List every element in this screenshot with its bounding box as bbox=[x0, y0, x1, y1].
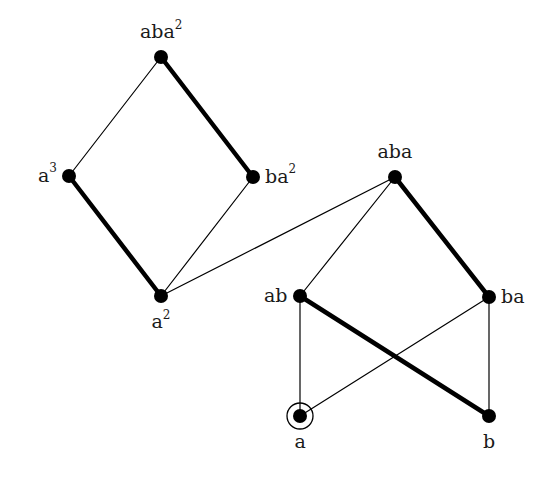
node-label-b: b bbox=[483, 432, 495, 451]
edge-a2-aba bbox=[161, 177, 395, 296]
node-b bbox=[482, 409, 496, 423]
edge-ba2-a2 bbox=[161, 177, 253, 296]
node-label-a3: a3 bbox=[38, 166, 57, 185]
node-a bbox=[293, 409, 307, 423]
node-a3 bbox=[62, 169, 76, 183]
node-aba2 bbox=[154, 50, 168, 64]
edges bbox=[69, 57, 489, 416]
node-label-a2: a2 bbox=[152, 312, 171, 331]
node-ab bbox=[293, 289, 307, 303]
hasse-diagram bbox=[0, 0, 560, 485]
node-label-aba: aba bbox=[378, 142, 413, 161]
node-ba bbox=[482, 290, 496, 304]
node-label-ba2: ba2 bbox=[265, 167, 296, 186]
node-a2 bbox=[154, 289, 168, 303]
nodes bbox=[62, 50, 496, 429]
edge-aba-ba bbox=[395, 177, 489, 297]
node-label-aba2: aba2 bbox=[140, 22, 182, 41]
edge-aba2-a3 bbox=[69, 57, 161, 176]
node-aba bbox=[388, 170, 402, 184]
edge-aba-ab bbox=[300, 177, 395, 296]
edge-aba2-ba2 bbox=[161, 57, 253, 177]
node-label-ba: ba bbox=[501, 287, 525, 306]
edge-a3-a2 bbox=[69, 176, 161, 296]
node-ba2 bbox=[246, 170, 260, 184]
node-label-ab: ab bbox=[264, 286, 288, 305]
node-label-a: a bbox=[295, 432, 306, 451]
